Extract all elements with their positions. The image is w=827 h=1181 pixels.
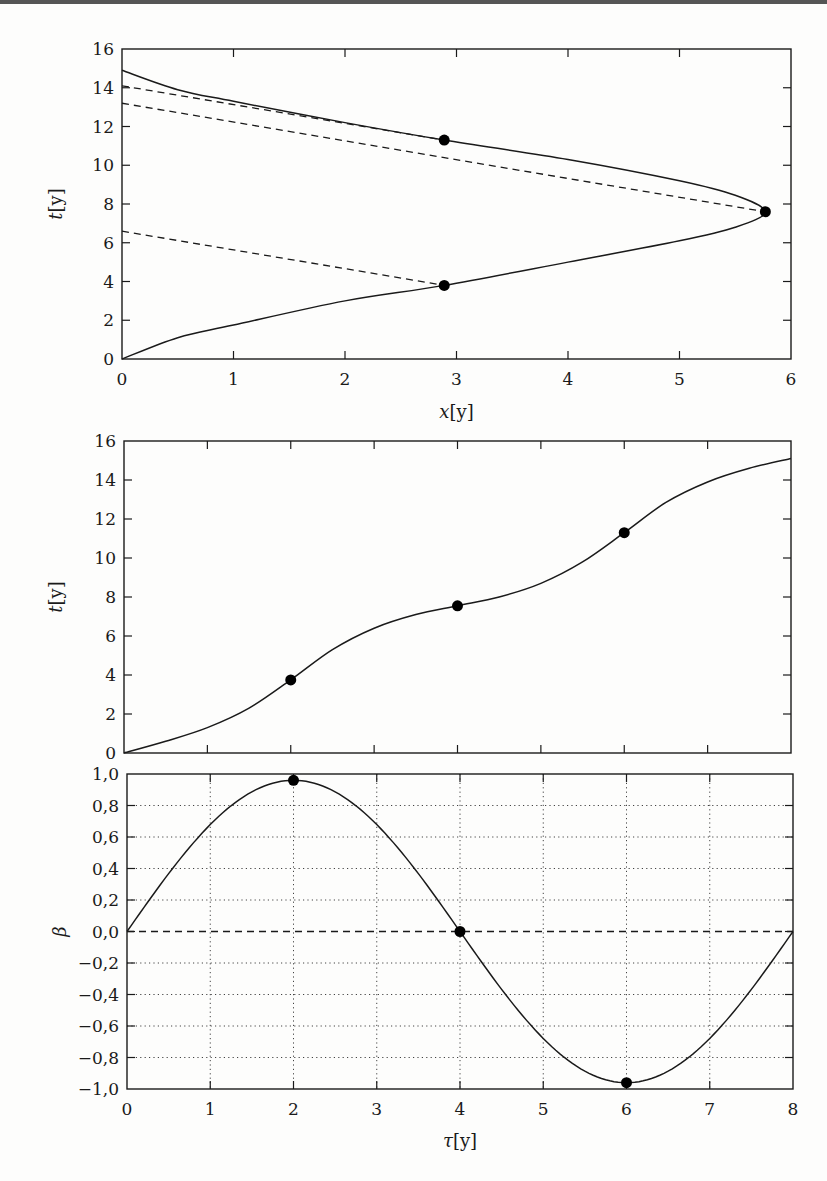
y-tick-label: 14 — [92, 78, 114, 98]
x-tick-label: 2 — [340, 369, 351, 389]
data-point-marker — [288, 775, 299, 786]
data-point-marker — [285, 674, 296, 685]
plot-frame — [122, 49, 791, 359]
x-axis-title: x[y] — [439, 401, 473, 422]
y-tick-label: 6 — [105, 626, 116, 646]
y-tick-label: 10 — [92, 155, 114, 175]
y-tick-label: 0 — [105, 743, 116, 763]
data-point-marker — [619, 527, 630, 538]
plot-frame — [124, 441, 791, 753]
y-tick-label: 0,2 — [92, 890, 119, 910]
chart-figure: 01234560246810121416t[y]x[y] 02468101214… — [0, 0, 827, 1181]
x-tick-label: 4 — [563, 369, 574, 389]
y-tick-label: 16 — [94, 431, 116, 451]
series-simultaneity-1 — [122, 231, 444, 285]
y-tick-label: 4 — [105, 665, 116, 685]
x-axis-title: τ[y] — [443, 1130, 477, 1151]
x-tick-label: 1 — [228, 369, 239, 389]
y-tick-label: 6 — [103, 233, 114, 253]
chart-t-vs-tau: 0246810121416t[y] — [45, 431, 791, 763]
y-tick-label: 8 — [103, 194, 114, 214]
y-tick-label: −0,6 — [78, 1016, 119, 1036]
x-tick-label: 3 — [451, 369, 462, 389]
x-tick-label: 0 — [117, 369, 128, 389]
x-tick-label: 8 — [788, 1099, 799, 1119]
y-axis-title: t[y] — [45, 581, 66, 612]
y-tick-label: −0,8 — [78, 1048, 119, 1068]
x-tick-label: 5 — [538, 1099, 549, 1119]
y-tick-label: 2 — [105, 704, 116, 724]
series-simultaneity-2 — [122, 103, 765, 212]
y-tick-label: 12 — [94, 509, 116, 529]
data-point-marker — [452, 600, 463, 611]
data-point-marker — [760, 206, 771, 217]
data-point-marker — [439, 280, 450, 291]
x-tick-label: 3 — [371, 1099, 382, 1119]
x-tick-label: 6 — [786, 369, 797, 389]
x-tick-label: 0 — [122, 1099, 133, 1119]
y-tick-label: 0,6 — [92, 827, 119, 847]
x-tick-label: 1 — [205, 1099, 216, 1119]
data-point-marker — [455, 926, 466, 937]
y-axis-title: t[y] — [45, 188, 66, 219]
x-tick-label: 7 — [704, 1099, 715, 1119]
chart-t-vs-x: 01234560246810121416t[y]x[y] — [45, 39, 796, 422]
y-tick-label: 2 — [103, 310, 114, 330]
y-tick-label: 0,4 — [92, 859, 119, 879]
y-tick-label: 16 — [92, 39, 114, 59]
y-tick-label: 4 — [103, 272, 114, 292]
x-tick-label: 2 — [288, 1099, 299, 1119]
y-tick-label: 1,0 — [92, 764, 119, 784]
y-tick-label: 14 — [94, 470, 116, 490]
y-axis-title: β — [49, 926, 70, 937]
x-tick-label: 4 — [455, 1099, 466, 1119]
data-point-marker — [439, 135, 450, 146]
series-worldline — [122, 70, 765, 359]
y-tick-label: 0,0 — [92, 922, 119, 942]
data-point-marker — [621, 1077, 632, 1088]
y-tick-label: −1,0 — [78, 1079, 119, 1099]
x-tick-label: 6 — [621, 1099, 632, 1119]
y-tick-label: 0,8 — [92, 796, 119, 816]
y-tick-label: 0 — [103, 349, 114, 369]
x-tick-label: 5 — [674, 369, 685, 389]
y-tick-label: 10 — [94, 548, 116, 568]
y-tick-label: −0,2 — [78, 953, 119, 973]
y-tick-label: 12 — [92, 117, 114, 137]
y-tick-label: −0,4 — [78, 985, 119, 1005]
chart-beta-vs-tau: 012345678−1,0−0,8−0,6−0,4−0,20,00,20,40,… — [49, 764, 798, 1151]
y-tick-label: 8 — [105, 587, 116, 607]
series-simultaneity-3 — [122, 86, 444, 140]
